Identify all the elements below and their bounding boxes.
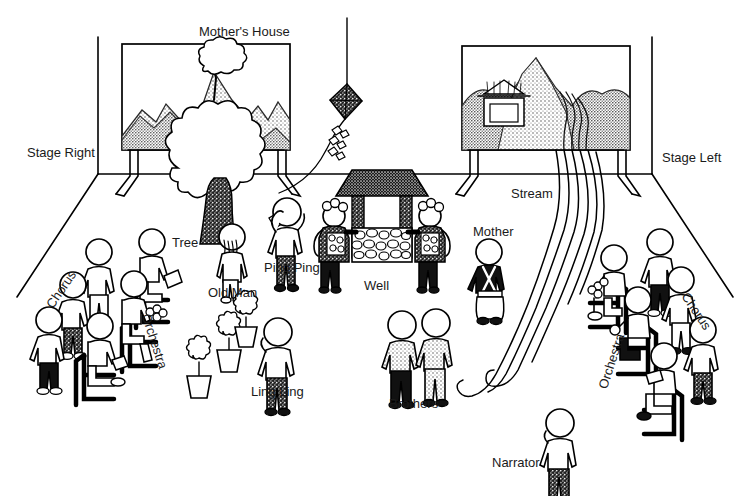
label-stage-left: Stage Left (662, 151, 721, 164)
stage-scene-illustration (0, 0, 748, 496)
character-ling-ling (258, 318, 294, 416)
label-tree: Tree (172, 236, 198, 249)
chorus-left-member-3 (30, 307, 64, 394)
label-stream: Stream (511, 187, 553, 200)
orchestra-right-member-3 (637, 343, 682, 440)
label-mothers-house: Mother's House (199, 25, 290, 38)
figure-at-well-left (314, 199, 356, 294)
label-well: Well (364, 279, 389, 292)
label-ping-ping: Ping Ping (264, 261, 320, 274)
character-brother-1 (382, 311, 418, 409)
character-brother-2 (416, 309, 452, 407)
character-narrator (540, 409, 576, 496)
well-prop (336, 170, 428, 262)
tree-prop (165, 101, 265, 244)
flower-pot-prop-1 (187, 335, 212, 398)
figure-at-well-right (408, 199, 450, 294)
character-mother (468, 239, 504, 325)
character-ping-ping (268, 198, 304, 292)
label-narrator: Narrator (492, 456, 540, 469)
stage-layout-diagram: Mother's House Stage Right Stage Left Tr… (0, 0, 748, 496)
label-brothers: Brothers (389, 397, 438, 410)
label-ling-ling: Ling Ling (251, 385, 304, 398)
label-old-man: Old Man (208, 286, 257, 299)
label-stage-right: Stage Right (27, 146, 95, 159)
label-mother: Mother (473, 225, 513, 238)
